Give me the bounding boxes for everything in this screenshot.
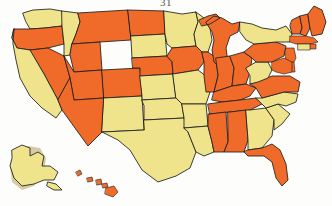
state-RI[interactable] <box>310 44 316 49</box>
page-canvas: 31 <box>0 0 332 206</box>
state-NY[interactable] <box>240 22 292 44</box>
us-map-svg <box>0 0 332 206</box>
state-WA[interactable] <box>23 9 63 29</box>
state-ME[interactable] <box>308 6 326 36</box>
state-NM[interactable] <box>102 96 144 132</box>
state-AL[interactable] <box>224 110 248 152</box>
state-FL[interactable] <box>244 144 288 186</box>
state-HI-island-3[interactable] <box>96 179 102 185</box>
state-HI-island-5[interactable] <box>105 186 118 197</box>
state-MN[interactable] <box>164 11 198 48</box>
state-CT[interactable] <box>298 44 310 50</box>
state-MT[interactable] <box>72 10 131 44</box>
state-HI-island-2[interactable] <box>87 177 93 182</box>
state-KS[interactable] <box>140 74 176 100</box>
state-HI-island-1[interactable] <box>76 170 82 176</box>
state-SD[interactable] <box>131 34 167 58</box>
state-OR[interactable] <box>12 26 64 50</box>
state-WY[interactable] <box>70 42 102 72</box>
state-ND[interactable] <box>128 10 165 36</box>
state-CO[interactable] <box>102 68 142 98</box>
state-IA[interactable] <box>167 46 204 74</box>
state-MA[interactable] <box>290 36 318 44</box>
state-HI-island-4[interactable] <box>102 183 108 188</box>
us-choropleth-map <box>0 0 332 206</box>
state-AR[interactable] <box>182 104 208 128</box>
state-OK[interactable] <box>142 98 184 120</box>
